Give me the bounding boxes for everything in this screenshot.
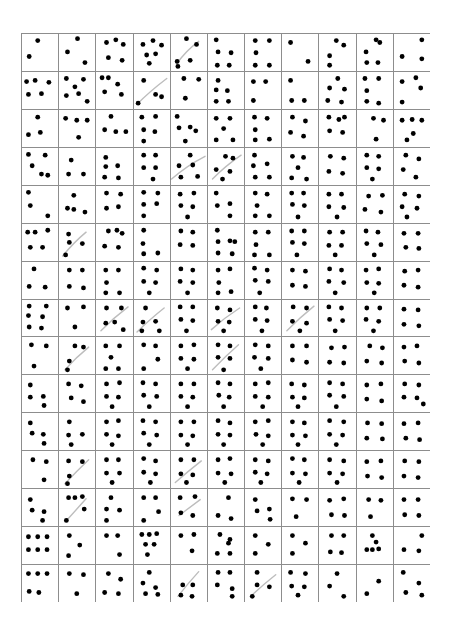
scatter-dot: [178, 510, 183, 515]
scatter-dot: [290, 283, 295, 288]
scatter-dot: [251, 163, 256, 168]
scatter-panel: [402, 307, 422, 329]
scatter-dot: [266, 433, 271, 438]
scatter-panel: [26, 304, 49, 331]
scatter-dot: [190, 318, 195, 323]
scatter-dot: [416, 361, 421, 366]
scatter-panel: [65, 36, 87, 65]
scatter-panel: [366, 497, 383, 519]
scatter-dot: [402, 192, 407, 197]
scatter-dot: [69, 442, 74, 447]
scatter-dot: [327, 86, 332, 91]
scatter-dot: [73, 344, 78, 349]
scatter-panel: [253, 497, 273, 522]
scatter-dot: [153, 419, 158, 424]
scatter-dot: [27, 325, 32, 330]
scatter-dot: [232, 239, 237, 244]
scatter-dot: [417, 437, 422, 442]
scatter-dot: [227, 320, 232, 325]
scatter-dot: [418, 86, 423, 91]
scatter-dot: [253, 278, 258, 283]
scatter-panel: [252, 266, 271, 295]
scatter-dot: [327, 230, 332, 235]
scatter-dot: [252, 153, 257, 158]
scatter-dot: [327, 471, 332, 476]
scatter-dot: [402, 497, 407, 502]
scatter-dot: [215, 551, 220, 556]
scatter-dot: [267, 213, 272, 218]
scatter-dot: [333, 253, 338, 258]
scatter-dot: [400, 100, 405, 105]
scatter-dot: [230, 594, 235, 599]
scatter-dot: [178, 192, 183, 197]
scatter-dot: [178, 381, 183, 386]
scatter-dot: [327, 53, 332, 58]
scatter-dot: [290, 115, 295, 120]
scatter-dot: [110, 442, 115, 447]
scatter-dot: [377, 40, 382, 45]
scatter-grid: [21, 33, 430, 602]
scatter-dot: [75, 36, 80, 41]
scatter-dot: [415, 206, 420, 211]
scatter-dot: [304, 344, 309, 349]
scatter-dot: [35, 571, 40, 576]
scatter-dot: [339, 268, 344, 273]
scatter-dot: [250, 594, 255, 599]
scatter-dot: [190, 163, 195, 168]
scatter-dot: [63, 116, 68, 121]
scatter-dot: [265, 192, 270, 197]
scatter-dot: [183, 139, 188, 144]
scatter-dot: [30, 508, 35, 513]
scatter-panel: [141, 153, 158, 182]
trend-line: [65, 347, 89, 370]
scatter-dot: [364, 88, 369, 93]
scatter-panel: [402, 497, 422, 518]
scatter-dot: [364, 60, 369, 65]
scatter-dot: [302, 421, 307, 426]
scatter-dot: [419, 56, 424, 61]
scatter-dot: [41, 432, 46, 437]
scatter-dot: [333, 328, 338, 333]
scatter-panel: [141, 190, 160, 218]
scatter-dot: [109, 114, 114, 119]
scatter-dot: [416, 548, 421, 553]
scatter-dot: [79, 383, 84, 388]
scatter-dot: [252, 266, 257, 271]
scatter-dot: [289, 584, 294, 589]
scatter-dot: [341, 43, 346, 48]
scatter-panel: [24, 78, 51, 97]
scatter-dot: [141, 213, 146, 218]
scatter-panel: [67, 571, 86, 596]
scatter-panel: [288, 570, 308, 598]
scatter-dot: [74, 118, 79, 123]
scatter-panel: [402, 533, 425, 553]
scatter-panel: [104, 495, 122, 523]
scatter-dot: [26, 534, 31, 539]
scatter-panel: [400, 192, 422, 220]
scatter-dot: [365, 474, 370, 479]
scatter-panel: [141, 418, 160, 447]
scatter-dot: [177, 163, 182, 168]
scatter-dot: [102, 89, 107, 94]
scatter-dot: [65, 50, 70, 55]
scatter-dot: [178, 471, 183, 476]
scatter-panel: [214, 191, 233, 219]
scatter-dot: [364, 280, 369, 285]
scatter-dot: [231, 138, 236, 143]
scatter-dot: [403, 436, 408, 441]
scatter-panel: [253, 418, 271, 447]
scatter-dot: [227, 395, 232, 400]
scatter-dot: [267, 175, 272, 180]
scatter-dot: [69, 158, 74, 163]
scatter-dot: [192, 191, 197, 196]
scatter-dot: [178, 203, 183, 208]
scatter-dot: [119, 306, 124, 311]
scatter-panel: [66, 419, 85, 447]
scatter-dot: [66, 553, 71, 558]
scatter-dot: [185, 215, 190, 220]
scatter-dot: [290, 533, 295, 538]
scatter-dot: [118, 192, 123, 197]
scatter-panel: [136, 78, 167, 106]
scatter-dot: [334, 38, 339, 43]
scatter-dot: [302, 203, 307, 208]
